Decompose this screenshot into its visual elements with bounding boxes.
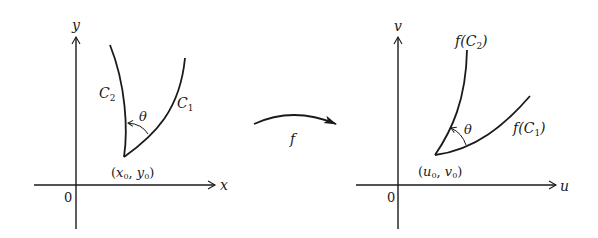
point-w0-label: (u0, v0) — [418, 164, 462, 180]
u-axis-label: u — [560, 178, 569, 194]
mapping-label: f — [289, 131, 298, 147]
mapping-arrow — [254, 115, 336, 124]
origin-label: 0 — [64, 190, 72, 205]
angle-theta-label-w: θ — [464, 122, 472, 137]
origin-label-w: 0 — [387, 190, 395, 205]
angle-theta-label: θ — [139, 109, 147, 124]
angle-arc — [128, 123, 148, 134]
right-panel-w-plane: v u 0 f(C2) f(C1) θ (u0, v0) — [356, 18, 569, 229]
curve-f-c2 — [435, 50, 467, 155]
curve-f-c2-label: f(C2) — [454, 33, 488, 51]
curve-f-c1-label: f(C1) — [512, 120, 546, 138]
left-panel-z-plane: y x 0 C2 C1 θ (x0, y0) — [34, 17, 228, 229]
y-axis-label: y — [71, 17, 81, 33]
curve-c1 — [124, 58, 185, 157]
conformal-mapping-diagram: y x 0 C2 C1 θ (x0, y0) f — [0, 0, 598, 238]
v-axis-label: v — [394, 18, 402, 34]
point-z0-label: (x0, y0) — [111, 165, 154, 181]
mapping-arrow-group: f — [254, 115, 336, 147]
x-axis-label: x — [220, 177, 228, 193]
curve-c1-label: C1 — [177, 95, 193, 113]
curve-c2-label: C2 — [99, 85, 115, 103]
